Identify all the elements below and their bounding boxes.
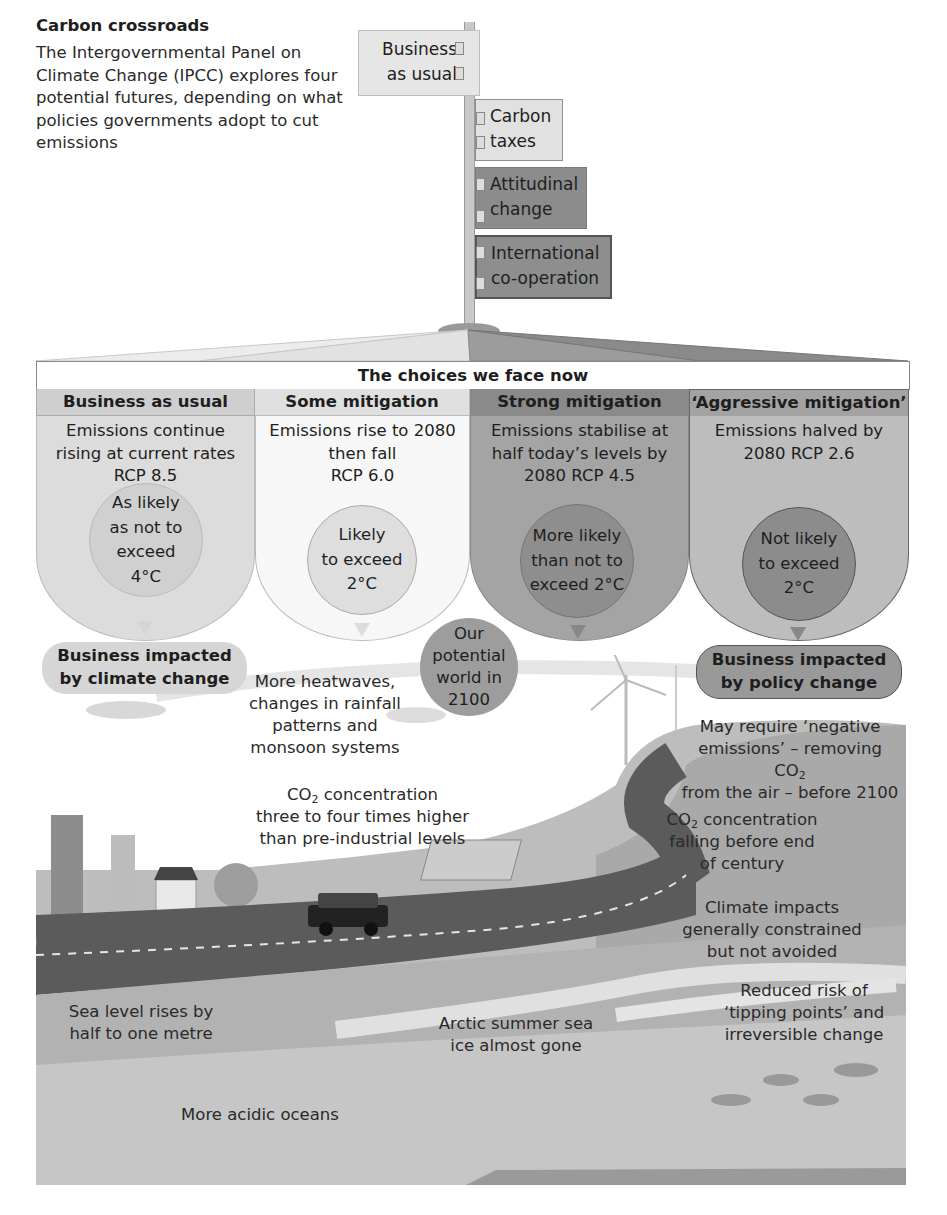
note-text: concentration (318, 785, 438, 804)
note-line: monsoon systems (240, 737, 410, 759)
sign-line: International (491, 241, 606, 266)
sign-line: Carbon (490, 104, 558, 129)
note-text: concentration (698, 810, 818, 829)
sign-bracket-icon (476, 210, 485, 223)
note-line: CO2 concentration (652, 809, 832, 831)
description-line: half today’s levels by (471, 443, 688, 466)
description-line: RCP 6.0 (256, 465, 469, 488)
acidic-oceans-note: More acidic oceans (170, 1104, 350, 1126)
scenario-aggressive-mitigation: ‘Aggressive mitigation’ Emissions halved… (689, 389, 909, 641)
description-line: Emissions halved by (690, 420, 908, 443)
sign-line: change (490, 197, 582, 222)
co2-subscript: 2 (691, 818, 698, 831)
scenario-heading: Strong mitigation (470, 389, 689, 416)
scenario-business-as-usual: Business as usual Emissions continue ris… (36, 389, 255, 641)
climate-impacts-note: Climate impacts generally constrained bu… (672, 897, 872, 963)
likelihood-line: More likely (530, 524, 625, 549)
description-line: Emissions continue (37, 420, 254, 443)
note-line: patterns and (240, 715, 410, 737)
description-line: 2080 RCP 2.6 (690, 443, 908, 466)
pill-line: by climate change (42, 667, 247, 690)
note-line: emissions’ – removing CO2 (680, 738, 900, 782)
bubble-line: 2100 (432, 689, 505, 711)
sign-bracket-icon (476, 246, 485, 259)
likelihood-bubble: Not likely to exceed 2°C (742, 507, 856, 621)
sign-international-cooperation: International co-operation (475, 235, 612, 299)
bubble-line: world in (432, 667, 505, 689)
likelihood-line: 4°C (110, 565, 183, 590)
pill-line: Business impacted (697, 648, 901, 671)
sign-line: as usual (367, 62, 457, 87)
arrow-down-icon (354, 623, 370, 637)
bubble-line: Our (432, 623, 505, 645)
likelihood-line: Likely (322, 523, 403, 548)
arrow-down-icon (137, 621, 153, 635)
note-line: three to four times higher (240, 806, 485, 828)
sign-line: co-operation (491, 266, 606, 291)
heatwaves-note: More heatwaves, changes in rainfall patt… (240, 671, 410, 759)
sign-attitudinal-change: Attitudinal change (475, 167, 587, 229)
co2-subscript: 2 (799, 769, 806, 782)
paths-fan (0, 300, 947, 370)
note-line: CO2 concentration (240, 784, 485, 806)
pill-line: by policy change (697, 671, 901, 694)
sign-bracket-icon (476, 178, 485, 191)
arrow-down-icon (790, 627, 806, 641)
likelihood-line: exceed 2°C (530, 573, 625, 598)
likelihood-line: Not likely (759, 527, 840, 552)
pill-line: Business impacted (42, 644, 247, 667)
note-line: Arctic summer sea (436, 1013, 596, 1035)
co2-text: CO (666, 810, 691, 829)
description-line: rising at current rates (37, 443, 254, 466)
note-line: than pre-industrial levels (240, 828, 485, 850)
business-impacted-by-policy-pill: Business impacted by policy change (696, 645, 902, 699)
arctic-ice-note: Arctic summer sea ice almost gone (436, 1013, 596, 1057)
sign-bracket-icon (455, 42, 464, 55)
note-line: of century (652, 853, 832, 875)
note-line: generally constrained (672, 919, 872, 941)
co2-falling-note: CO2 concentration falling before end of … (652, 809, 832, 875)
description-line: Emissions stabilise at (471, 420, 688, 443)
scenario-some-mitigation: Some mitigation Emissions rise to 2080 t… (255, 389, 470, 641)
arrow-down-icon (570, 625, 586, 639)
note-line: half to one metre (56, 1023, 226, 1045)
sign-line: Attitudinal (490, 172, 582, 197)
potential-world-2100-bubble: Our potential world in 2100 (420, 618, 518, 716)
scenario-heading: ‘Aggressive mitigation’ (689, 389, 909, 417)
sea-level-note: Sea level rises by half to one metre (56, 1001, 226, 1045)
scenario-heading: Business as usual (36, 389, 255, 416)
likelihood-line: to exceed (759, 552, 840, 577)
description-line: 2080 RCP 4.5 (471, 465, 688, 488)
sign-line: Business (367, 37, 457, 62)
sign-bracket-icon (476, 112, 485, 125)
likelihood-bubble: As likely as not to exceed 4°C (89, 483, 203, 597)
description-line: then fall (256, 443, 469, 466)
sign-carbon-taxes: Carbon taxes (475, 99, 563, 161)
business-impacted-by-climate-pill: Business impacted by climate change (42, 642, 247, 694)
likelihood-line: than not to (530, 549, 625, 574)
likelihood-line: to exceed (322, 548, 403, 573)
description-line: Emissions rise to 2080 (256, 420, 469, 443)
sign-bracket-icon (476, 277, 485, 290)
note-line: May require ‘negative (680, 716, 900, 738)
co2-high-note: CO2 concentration three to four times hi… (240, 784, 485, 850)
note-line: Reduced risk of (714, 980, 894, 1002)
figure-title: Carbon crossroads (36, 16, 209, 35)
note-line: Climate impacts (672, 897, 872, 919)
likelihood-line: 2°C (759, 576, 840, 601)
sign-business-as-usual: Business as usual (358, 30, 480, 96)
note-line: from the air – before 2100 (680, 782, 900, 804)
co2-text: CO (287, 785, 312, 804)
sign-line: taxes (490, 129, 558, 154)
likelihood-line: 2°C (322, 572, 403, 597)
likelihood-bubble: Likely to exceed 2°C (307, 505, 417, 615)
note-line: More heatwaves, (240, 671, 410, 693)
negative-emissions-note: May require ‘negative emissions’ – remov… (680, 716, 900, 804)
scenario-strong-mitigation: Strong mitigation Emissions stabilise at… (470, 389, 689, 641)
note-line: ice almost gone (436, 1035, 596, 1057)
likelihood-line: exceed (110, 540, 183, 565)
likelihood-line: As likely (110, 491, 183, 516)
likelihood-bubble: More likely than not to exceed 2°C (520, 504, 634, 618)
note-line: ‘tipping points’ and (714, 1002, 894, 1024)
sign-bracket-icon (455, 67, 464, 80)
